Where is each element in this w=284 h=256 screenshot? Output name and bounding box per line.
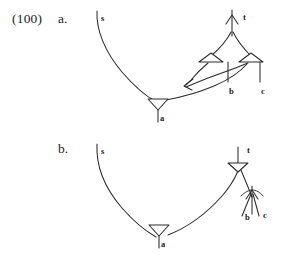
leg-c-b	[253, 194, 259, 216]
diagram-a-group	[97, 10, 263, 122]
node-label-b-a: b	[229, 87, 234, 96]
triangle-landing-right-a	[239, 53, 263, 62]
triangle-node-t-b	[228, 163, 248, 172]
node-label-a-b: a	[161, 240, 165, 249]
triangle-landing-left-a	[199, 53, 223, 62]
edge-a-to-t-b	[168, 171, 238, 235]
edge-t-left-branch-a	[211, 32, 231, 56]
item-letter-a: a.	[58, 12, 67, 26]
node-label-t-a: t	[243, 13, 246, 22]
example-number: (100)	[12, 12, 42, 26]
edge-s-to-a	[97, 11, 155, 101]
node-label-s-a: s	[101, 14, 104, 23]
syntax-figure: .ln { fill:none; stroke:#2b2b2b; stroke-…	[0, 0, 284, 256]
node-label-c-a: c	[261, 87, 265, 96]
diagram-b-group	[97, 144, 263, 248]
node-label-t-b: t	[247, 146, 250, 155]
diagram-linework: .ln { fill:none; stroke:#2b2b2b; stroke-…	[0, 0, 284, 256]
node-label-c-b: c	[263, 211, 267, 220]
triangle-node-a-a	[148, 99, 168, 110]
node-label-s-b: s	[101, 147, 104, 156]
edge-a-to-right-base	[166, 64, 247, 100]
node-label-a-a: a	[160, 114, 164, 123]
item-letter-b: b.	[58, 142, 68, 156]
edge-t-right-branch-a	[233, 32, 251, 56]
node-label-b-b: b	[245, 213, 250, 222]
edge-s-to-a-b	[97, 144, 156, 237]
